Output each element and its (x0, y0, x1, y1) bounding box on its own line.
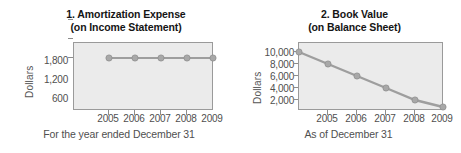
chart-caption-right: As of December 31 (230, 128, 461, 140)
chart-title-line1: 2. Book Value (248, 8, 461, 21)
chart-title-line2: (on Balance Sheet) (248, 21, 461, 34)
data-point (383, 85, 389, 91)
y-tick-label: 8,000 (270, 60, 294, 70)
x-tick-label: 2007 (374, 113, 395, 124)
chart-title-line2: (on Income Statement) (22, 21, 230, 34)
chart-pair: 1. Amortization Expense (on Income State… (0, 0, 461, 153)
y-tick-label: 1,800 (44, 56, 68, 66)
y-tickmark (68, 38, 73, 39)
data-point (325, 61, 331, 67)
data-point (158, 55, 164, 61)
y-tick-label: 10,000 (265, 48, 294, 58)
data-point (132, 55, 138, 61)
y-tick-label: 4,000 (270, 84, 294, 94)
line-series-book-value (299, 43, 444, 111)
y-axis-label-right: Dollars (252, 71, 263, 104)
chart-panel-book-value: 2. Book Value (on Balance Sheet) Dollars… (230, 0, 461, 153)
x-tick-label: 2009 (431, 113, 452, 124)
data-point (440, 104, 446, 110)
data-point (184, 55, 190, 61)
plot-area-amortization-expense (73, 42, 213, 110)
x-tick-label: 2006 (345, 113, 366, 124)
y-tick-label: 2,000 (270, 96, 294, 106)
chart-panel-amortization-expense: 1. Amortization Expense (on Income State… (0, 0, 230, 153)
data-point (354, 73, 360, 79)
chart-caption-left: For the year ended December 31 (0, 128, 230, 140)
chart-title-line1: 1. Amortization Expense (22, 8, 230, 21)
plot-canvas-right (299, 43, 442, 109)
y-tick-label: 600 (52, 94, 68, 104)
plot-area-book-value (298, 42, 443, 110)
x-tick-label: 2009 (201, 113, 222, 124)
data-point (106, 55, 112, 61)
plot-canvas-left (74, 43, 212, 109)
chart-title-amortization-expense: 1. Amortization Expense (on Income State… (0, 8, 230, 33)
data-point (296, 49, 302, 55)
x-tick-label: 2008 (175, 113, 196, 124)
data-point (412, 97, 418, 103)
x-tick-label: 2005 (316, 113, 337, 124)
data-point (210, 55, 216, 61)
y-tickmark (68, 19, 73, 20)
x-tick-label: 2006 (123, 113, 144, 124)
x-tick-label: 2008 (403, 113, 424, 124)
line-series-amortization (74, 43, 214, 111)
x-tick-label: 2007 (149, 113, 170, 124)
y-tick-label: 1,200 (44, 75, 68, 85)
y-tick-label: 6,000 (270, 72, 294, 82)
chart-title-book-value: 2. Book Value (on Balance Sheet) (230, 8, 461, 33)
y-axis-label-left: Dollars (24, 65, 35, 98)
x-tick-label: 2005 (97, 113, 118, 124)
